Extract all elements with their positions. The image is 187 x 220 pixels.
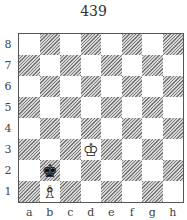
square-d2[interactable] xyxy=(81,160,102,181)
square-f6[interactable] xyxy=(122,76,143,97)
square-g4[interactable] xyxy=(142,118,163,139)
file-label: e xyxy=(101,206,122,219)
file-label: c xyxy=(60,206,81,219)
square-d6[interactable] xyxy=(81,76,102,97)
square-c1[interactable] xyxy=(60,181,81,202)
rank-label: 2 xyxy=(3,164,13,177)
square-a7[interactable] xyxy=(19,55,40,76)
rank-label: 3 xyxy=(3,143,13,156)
square-e7[interactable] xyxy=(101,55,122,76)
square-c4[interactable] xyxy=(60,118,81,139)
square-b3[interactable] xyxy=(40,139,61,160)
square-d8[interactable] xyxy=(81,34,102,55)
rank-label: 5 xyxy=(3,101,13,114)
file-label: b xyxy=(40,206,61,219)
black-king-icon[interactable]: ♚ xyxy=(40,160,61,181)
square-a5[interactable] xyxy=(19,97,40,118)
square-b5[interactable] xyxy=(40,97,61,118)
rank-label: 1 xyxy=(3,185,13,198)
square-a4[interactable] xyxy=(19,118,40,139)
square-e1[interactable] xyxy=(101,181,122,202)
file-label: h xyxy=(163,206,184,219)
square-c8[interactable] xyxy=(60,34,81,55)
square-f1[interactable] xyxy=(122,181,143,202)
square-h6[interactable] xyxy=(163,76,184,97)
file-label: g xyxy=(142,206,163,219)
square-g7[interactable] xyxy=(142,55,163,76)
square-d1[interactable] xyxy=(81,181,102,202)
file-label: d xyxy=(81,206,102,219)
square-f5[interactable] xyxy=(122,97,143,118)
square-f4[interactable] xyxy=(122,118,143,139)
square-f3[interactable] xyxy=(122,139,143,160)
square-g2[interactable] xyxy=(142,160,163,181)
square-b8[interactable] xyxy=(40,34,61,55)
rank-label: 8 xyxy=(3,38,13,51)
square-a8[interactable] xyxy=(19,34,40,55)
square-a1[interactable] xyxy=(19,181,40,202)
square-e5[interactable] xyxy=(101,97,122,118)
square-h2[interactable] xyxy=(163,160,184,181)
rank-label: 4 xyxy=(3,122,13,135)
square-a2[interactable] xyxy=(19,160,40,181)
square-g6[interactable] xyxy=(142,76,163,97)
square-g8[interactable] xyxy=(142,34,163,55)
square-e4[interactable] xyxy=(101,118,122,139)
diagram-number: 439 xyxy=(0,3,187,19)
square-h4[interactable] xyxy=(163,118,184,139)
file-label: a xyxy=(19,206,40,219)
rank-label: 7 xyxy=(3,59,13,72)
square-e8[interactable] xyxy=(101,34,122,55)
square-g3[interactable] xyxy=(142,139,163,160)
square-e3[interactable] xyxy=(101,139,122,160)
square-b7[interactable] xyxy=(40,55,61,76)
rank-label: 6 xyxy=(3,80,13,93)
square-a3[interactable] xyxy=(19,139,40,160)
square-h1[interactable] xyxy=(163,181,184,202)
square-b4[interactable] xyxy=(40,118,61,139)
square-c6[interactable] xyxy=(60,76,81,97)
square-d5[interactable] xyxy=(81,97,102,118)
square-c5[interactable] xyxy=(60,97,81,118)
square-h5[interactable] xyxy=(163,97,184,118)
square-c2[interactable] xyxy=(60,160,81,181)
square-a6[interactable] xyxy=(19,76,40,97)
square-h3[interactable] xyxy=(163,139,184,160)
square-f2[interactable] xyxy=(122,160,143,181)
square-f7[interactable] xyxy=(122,55,143,76)
square-e6[interactable] xyxy=(101,76,122,97)
square-f8[interactable] xyxy=(122,34,143,55)
white-king-icon[interactable]: ♔ xyxy=(81,139,102,160)
white-bishop-icon[interactable]: ♗ xyxy=(40,181,61,202)
square-h8[interactable] xyxy=(163,34,184,55)
chess-board: ♔♚♗ xyxy=(18,33,184,203)
square-c3[interactable] xyxy=(60,139,81,160)
square-g1[interactable] xyxy=(142,181,163,202)
square-c7[interactable] xyxy=(60,55,81,76)
file-label: f xyxy=(122,206,143,219)
square-e2[interactable] xyxy=(101,160,122,181)
square-h7[interactable] xyxy=(163,55,184,76)
square-d7[interactable] xyxy=(81,55,102,76)
square-g5[interactable] xyxy=(142,97,163,118)
square-d4[interactable] xyxy=(81,118,102,139)
square-b6[interactable] xyxy=(40,76,61,97)
